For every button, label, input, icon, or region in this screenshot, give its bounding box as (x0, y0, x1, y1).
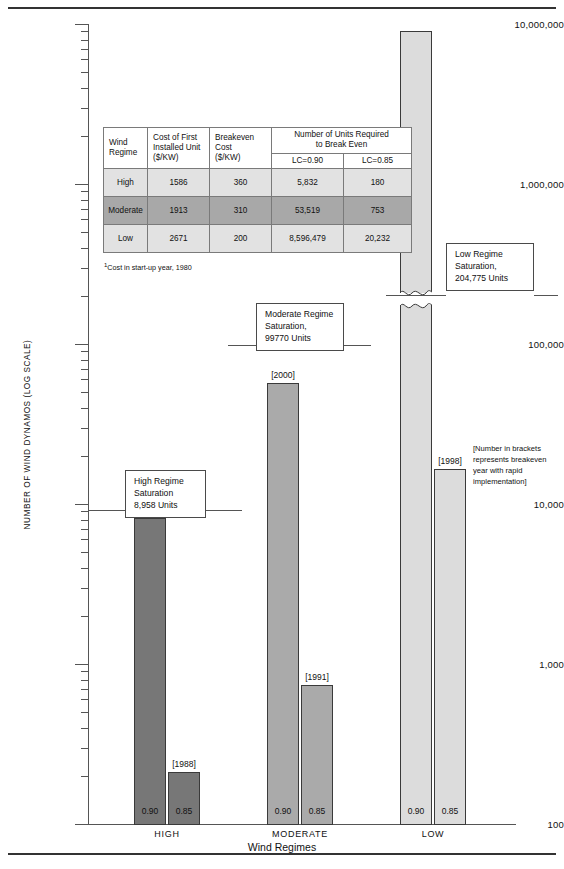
x-axis-title: Wind Regimes (0, 841, 564, 853)
y-tick-minor (81, 360, 88, 361)
y-tick-minor (81, 392, 88, 393)
bar-high-lc090[interactable] (134, 518, 166, 825)
y-tick-minor (81, 456, 88, 457)
bar-foot-high-lc085: 0.85 (168, 806, 200, 816)
y-tick-minor (81, 200, 88, 201)
y-tick-minor (81, 191, 88, 192)
cell-high-breakeven: 360 (210, 168, 272, 196)
bar-label-moderate-lc085: [1991] (285, 672, 349, 682)
table-row-high: High 1586 360 5,832 180 (104, 168, 412, 196)
saturation-line-low-right (534, 295, 558, 296)
cell-moderate-breakeven: 310 (210, 196, 272, 224)
bar-foot-moderate-lc085: 0.85 (301, 806, 333, 816)
y-tick-minor (81, 49, 88, 50)
th-units-line1: Number of Units Required (294, 130, 389, 139)
y-tick-minor (81, 248, 88, 249)
y-tick-1000000 (75, 184, 88, 185)
y-tick-minor (81, 379, 88, 380)
callout-low-line3: 204,775 Units (455, 273, 526, 285)
th-units-required: Number of Units Required to Break Even (272, 128, 412, 154)
th-cost-line2: Installed Unit (153, 143, 200, 152)
y-tick-minor (81, 520, 88, 521)
y-tick-minor (81, 748, 88, 749)
bar-foot-low-lc090: 0.90 (400, 806, 432, 816)
y-tick-minor (81, 59, 88, 60)
bar-low-lc085[interactable] (434, 469, 466, 825)
y-tick-minor (81, 108, 88, 109)
y-tick-minor (81, 232, 88, 233)
cell-low-lc090: 8,596,479 (272, 224, 344, 252)
y-tick-minor (81, 136, 88, 137)
y-tick-minor (81, 728, 88, 729)
saturation-line-moderate-right (343, 345, 371, 346)
y-tick-minor (81, 616, 88, 617)
y-tick-minor (81, 776, 88, 777)
y-tick-10000000 (75, 24, 88, 25)
table-row-low: Low 2671 200 8,596,479 20,232 (104, 224, 412, 252)
cell-low-breakeven: 200 (210, 224, 272, 252)
bar-label-moderate-lc090: [2000] (251, 370, 315, 380)
y-tick-minor (81, 296, 88, 297)
y-tick-minor (81, 539, 88, 540)
bar-low-lc090-lower[interactable] (400, 305, 432, 825)
y-tick-minor (81, 88, 88, 89)
bracket-note: [Number in brackets represents breakeven… (473, 443, 561, 487)
cell-moderate-lc085: 753 (344, 196, 412, 224)
th-lc-085: LC=0.85 (344, 153, 412, 168)
bar-moderate-lc090[interactable] (267, 383, 299, 825)
table-footnote: 1Cost in start-up year, 1980 (104, 262, 192, 272)
y-tick-minor (81, 72, 88, 73)
callout-high-line3: 8,958 Units (134, 500, 198, 512)
callout-moderate-saturation: Moderate Regime Saturation, 99770 Units (256, 303, 344, 351)
y-axis-line (88, 24, 89, 825)
y-tick-10000 (75, 504, 88, 505)
th-breakeven-line1: Breakeven Cost (215, 133, 254, 152)
y-tick-minor (81, 588, 88, 589)
data-table-container: Wind Regime Cost of First Installed Unit… (103, 127, 412, 253)
wind-regime-table: Wind Regime Cost of First Installed Unit… (103, 127, 412, 253)
th-cost-line3: ($/KW) (153, 153, 178, 162)
y-tick-label-100: 100 (492, 819, 564, 830)
saturation-line-low-left (386, 295, 446, 296)
y-tick-minor (81, 699, 88, 700)
y-tick-minor (81, 31, 88, 32)
table-header-row-1: Wind Regime Cost of First Installed Unit… (104, 128, 412, 154)
y-tick-minor (81, 408, 88, 409)
table-row-moderate: Moderate 1913 310 53,519 753 (104, 196, 412, 224)
y-tick-1000 (75, 664, 88, 665)
th-units-line2: to Break Even (316, 140, 367, 149)
saturation-line-high-right (206, 510, 242, 511)
y-tick-100000 (75, 344, 88, 345)
y-tick-minor (81, 511, 88, 512)
cell-high-lc085: 180 (344, 168, 412, 196)
y-tick-minor (81, 529, 88, 530)
callout-low-line1: Low Regime (455, 249, 526, 261)
bar-foot-high-lc090: 0.90 (134, 806, 166, 816)
y-tick-minor (81, 268, 88, 269)
cell-moderate-cost: 1913 (148, 196, 210, 224)
callout-low-saturation: Low Regime Saturation, 204,775 Units (446, 243, 534, 291)
th-wind-regime-line2: Regime (109, 148, 137, 157)
callout-high-line2: Saturation (134, 488, 198, 500)
y-tick-minor (81, 369, 88, 370)
saturation-line-moderate-left (228, 345, 256, 346)
y-tick-minor (81, 671, 88, 672)
group-label-high: HIGH (107, 829, 227, 839)
top-rule (8, 7, 556, 9)
group-label-low: LOW (373, 829, 493, 839)
bar-moderate-lc085[interactable] (301, 685, 333, 825)
y-tick-minor (81, 680, 88, 681)
callout-high-line1: High Regime (134, 476, 198, 488)
y-tick-label-1000000: 1,000,000 (492, 179, 564, 190)
th-cost-line1: Cost of First (153, 133, 197, 142)
y-tick-minor (81, 428, 88, 429)
y-tick-label-10000: 10,000 (492, 499, 564, 510)
bottom-rule (8, 853, 556, 855)
th-cost-first-installed: Cost of First Installed Unit ($/KW) (148, 128, 210, 169)
y-tick-minor (81, 689, 88, 690)
cell-low-lc085: 20,232 (344, 224, 412, 252)
bar-high-lc085[interactable] (168, 772, 200, 825)
y-tick-label-10000000: 10,000,000 (492, 19, 564, 30)
group-label-moderate: MODERATE (240, 829, 360, 839)
figure-container: NUMBER OF WIND DYNAMOS (LOG SCALE) Wind … (0, 0, 564, 869)
